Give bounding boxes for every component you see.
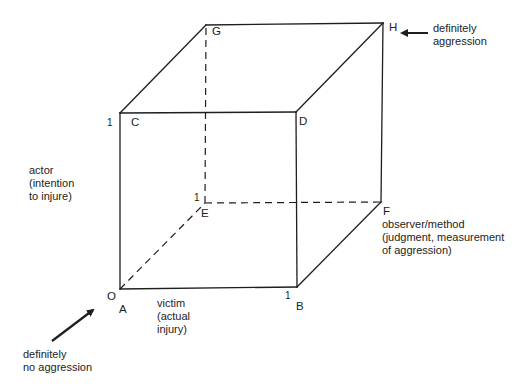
actor-axis-line2: (intention — [29, 177, 74, 190]
origin-label: O — [107, 290, 116, 303]
edge-e-f-hidden — [205, 202, 381, 203]
vertex-label-a: A — [119, 303, 127, 316]
edge-g-h — [206, 23, 383, 25]
observer-axis-line1: observer/method — [382, 218, 504, 231]
definitely-no-aggression-annotation: definitely no aggression — [23, 348, 92, 374]
actor-axis-label: actor (intention to injure) — [29, 164, 74, 203]
definitely-aggression-line2: aggression — [433, 35, 487, 48]
arrow-to-a-icon — [52, 310, 93, 341]
tick-observer-1: 1 — [194, 191, 200, 204]
vertex-label-c: C — [131, 116, 139, 129]
observer-axis-label: observer/method (judgment, measurement o… — [382, 218, 504, 257]
definitely-aggression-annotation: definitely aggression — [433, 22, 487, 48]
actor-axis-line1: actor — [29, 164, 74, 177]
victim-axis-line3: injury) — [157, 323, 190, 336]
edge-b-f — [297, 202, 381, 287]
observer-axis-line2: (judgment, measurement — [382, 231, 504, 244]
definitely-no-aggression-line2: no aggression — [23, 361, 92, 374]
edge-a-e-hidden — [120, 203, 205, 289]
edge-e-g-hidden — [205, 25, 206, 203]
vertex-label-h: H — [389, 21, 397, 34]
definitely-no-aggression-line1: definitely — [23, 348, 92, 361]
cube-diagram — [0, 0, 530, 391]
actor-axis-line3: to injure) — [29, 190, 74, 203]
edge-d-h — [296, 23, 383, 112]
vertex-label-f: F — [383, 205, 390, 218]
vertex-label-g: G — [212, 25, 221, 38]
victim-axis-line1: victim — [157, 297, 190, 310]
vertex-label-d: D — [299, 115, 307, 128]
tick-actor-1: 1 — [107, 116, 113, 129]
vertex-label-b: B — [296, 300, 304, 313]
edge-c-g — [120, 25, 206, 113]
tick-victim-1: 1 — [285, 289, 291, 302]
definitely-aggression-line1: definitely — [433, 22, 487, 35]
edge-h-f — [381, 23, 383, 202]
victim-axis-label: victim (actual injury) — [157, 297, 190, 336]
edge-d-c — [120, 112, 296, 113]
victim-axis-line2: (actual — [157, 310, 190, 323]
edge-b-d — [296, 112, 297, 287]
vertex-label-e: E — [201, 207, 209, 220]
observer-axis-line3: of aggression) — [382, 244, 504, 257]
edge-a-b — [120, 287, 297, 289]
